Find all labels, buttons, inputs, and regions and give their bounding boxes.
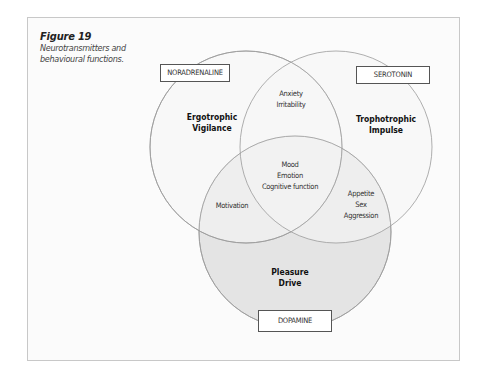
serotonin-function: Trophotrophic Impulse <box>356 114 416 136</box>
noradrenaline-label: NORADRENALINE <box>167 68 223 77</box>
noradrenaline-label-box: NORADRENALINE <box>160 64 230 82</box>
venn-diagram <box>0 0 485 387</box>
serotonin-dopamine-intersection: Appetite Sex Aggression <box>344 188 378 221</box>
dopamine-function: Pleasure Drive <box>271 267 309 289</box>
all-three-intersection: Mood Emotion Cognitive function <box>262 159 318 192</box>
dopamine-label-box: DOPAMINE <box>258 310 332 332</box>
noradrenaline-dopamine-intersection: Motivation <box>216 200 249 211</box>
dopamine-label: DOPAMINE <box>278 316 312 325</box>
noradrenaline-function: Ergotrophic Vigilance <box>187 112 237 134</box>
serotonin-label-box: SEROTONIN <box>356 66 430 84</box>
serotonin-label: SEROTONIN <box>374 70 412 79</box>
noradrenaline-serotonin-intersection: Anxiety Irritability <box>276 88 305 110</box>
